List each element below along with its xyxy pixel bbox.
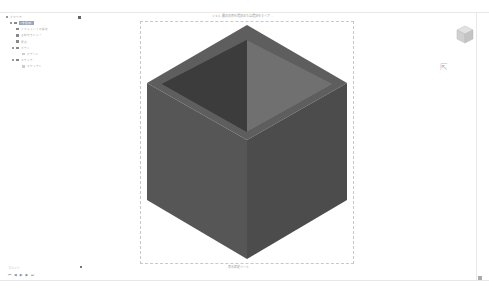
viewport-toolbar[interactable]: 表示設定ツール [228, 265, 249, 269]
next-frame-button[interactable]: ▶ [25, 273, 28, 277]
mouse-cursor-icon: ⇱ [440, 62, 448, 72]
first-frame-button[interactable]: ⏮ [8, 273, 11, 277]
comments-label[interactable]: コメント [8, 266, 20, 270]
prev-frame-button[interactable]: ◀ [14, 273, 17, 277]
comments-add-icon[interactable] [80, 266, 82, 268]
settings-icon[interactable] [478, 276, 482, 280]
shelled-cube-model[interactable] [0, 0, 489, 292]
timeline-controls: ⏮ ◀ ▶ ▶ ⏭ [8, 273, 34, 277]
play-button[interactable]: ▶ [20, 273, 23, 277]
view-cube-icon[interactable] [455, 24, 475, 46]
last-frame-button[interactable]: ⏭ [31, 273, 34, 277]
